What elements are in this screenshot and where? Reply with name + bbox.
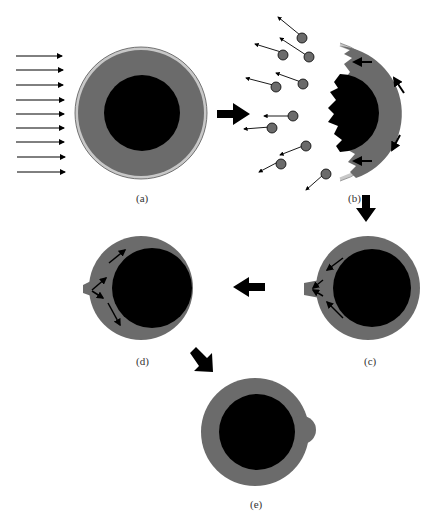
panel-d: (d) bbox=[83, 236, 193, 368]
diagram-canvas: (a) bbox=[0, 0, 435, 526]
panel-label-c: (c) bbox=[364, 355, 377, 368]
flow-arrow-a-b bbox=[217, 103, 250, 125]
panel-e: (e) bbox=[201, 378, 316, 511]
ejected-fragments bbox=[244, 17, 331, 190]
core bbox=[333, 249, 411, 327]
panel-c: (c) bbox=[304, 236, 420, 368]
incoming-flux-arrows bbox=[16, 56, 65, 172]
panel-label-d: (d) bbox=[136, 355, 149, 368]
panel-label-b: (b) bbox=[348, 192, 361, 205]
panel-label-e: (e) bbox=[250, 498, 263, 511]
flow-arrow-c-d bbox=[233, 277, 265, 297]
panel-b: (b) bbox=[244, 17, 404, 205]
panel-a: (a) bbox=[16, 47, 207, 205]
core bbox=[112, 248, 192, 328]
core bbox=[104, 75, 180, 151]
core bbox=[219, 394, 295, 470]
protrusion bbox=[304, 280, 320, 298]
panel-label-a: (a) bbox=[136, 192, 149, 205]
flow-arrow-d-e bbox=[190, 347, 213, 372]
